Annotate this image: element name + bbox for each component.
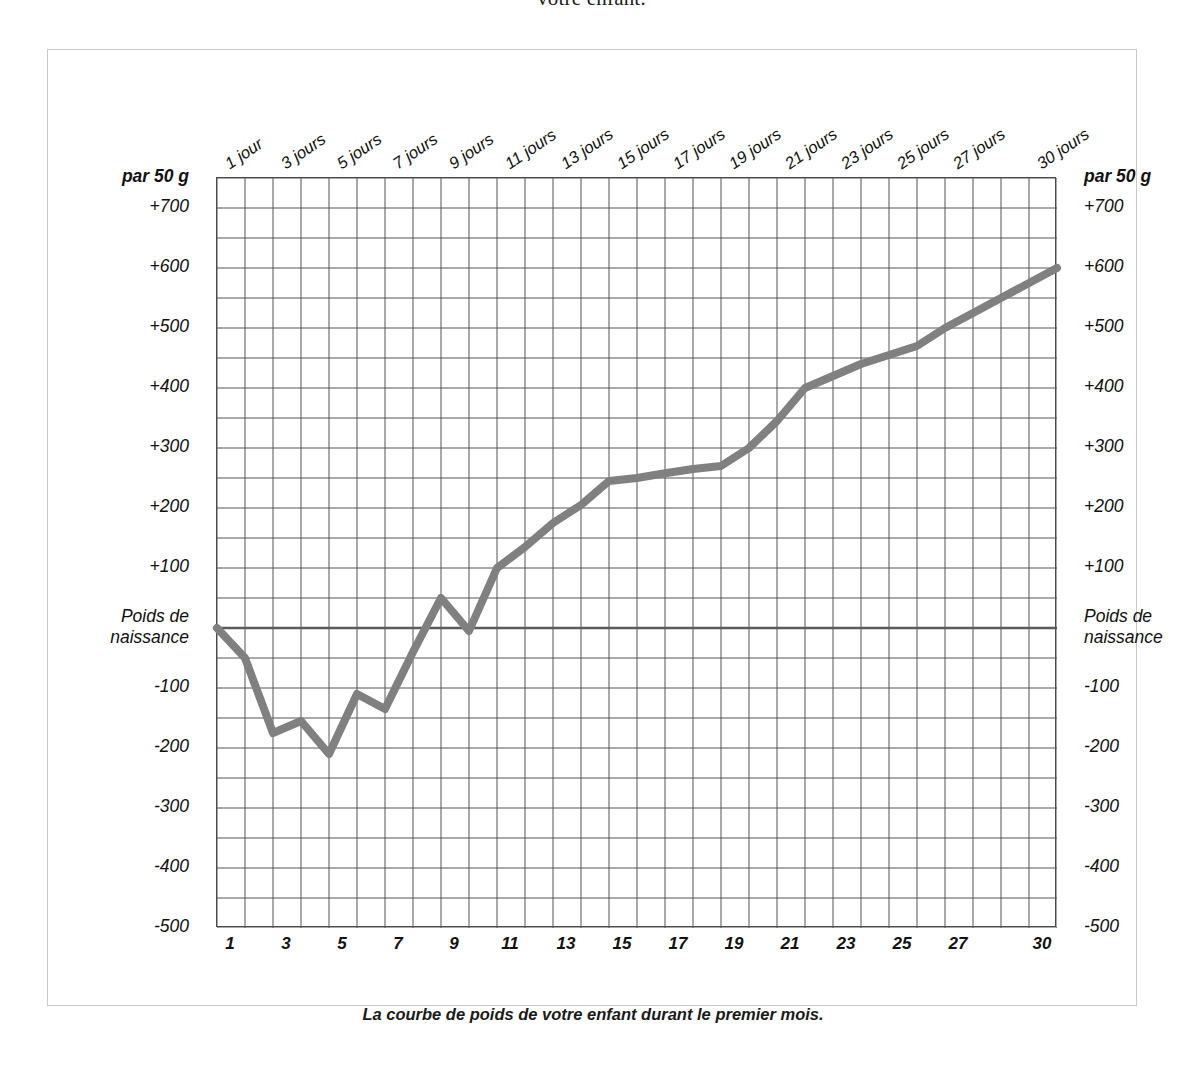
y-axis-tick-label: par 50 g (1084, 166, 1151, 187)
y-axis-tick-label: +100 (150, 556, 189, 577)
y-axis-left-labels: par 50 g+700+600+500+400+300+200+100Poid… (48, 50, 203, 1007)
y-axis-tick-label: +600 (150, 256, 189, 277)
y-axis-tick-label: -100 (154, 676, 189, 697)
weight-curve (217, 178, 1057, 928)
y-axis-tick-label: Poids de naissance (110, 606, 189, 647)
x-axis-top-tick-label: 3 jours (277, 130, 329, 173)
y-axis-tick-label: +300 (150, 436, 189, 457)
x-axis-top-tick-label: 17 jours (669, 124, 728, 173)
y-axis-tick-label: +500 (150, 316, 189, 337)
x-axis-bottom-tick-label: 30 (1033, 934, 1052, 954)
x-axis-bottom-labels: 1357911131517192123252730 (216, 934, 1056, 964)
x-axis-bottom-tick-label: 27 (949, 934, 968, 954)
y-axis-tick-label: +700 (1084, 196, 1123, 217)
x-axis-top-tick-label: 27 jours (949, 124, 1008, 173)
y-axis-tick-label: -300 (1084, 796, 1119, 817)
y-axis-tick-label: -200 (1084, 736, 1119, 757)
x-axis-bottom-tick-label: 5 (337, 934, 346, 954)
y-axis-tick-label: par 50 g (122, 166, 189, 187)
x-axis-top-tick-label: 11 jours (501, 125, 559, 173)
x-axis-bottom-tick-label: 21 (781, 934, 800, 954)
x-axis-top-tick-label: 19 jours (725, 124, 784, 173)
y-axis-tick-label: +500 (1084, 316, 1123, 337)
x-axis-top-tick-label: 13 jours (557, 124, 616, 173)
x-axis-bottom-tick-label: 3 (281, 934, 290, 954)
x-axis-top-tick-label: 1 jour (221, 134, 266, 173)
x-axis-top-tick-label: 25 jours (893, 124, 952, 173)
x-axis-top-tick-label: 23 jours (837, 124, 896, 173)
y-axis-tick-label: +200 (1084, 496, 1123, 517)
x-axis-bottom-tick-label: 17 (669, 934, 688, 954)
plot-area (216, 177, 1056, 927)
y-axis-tick-label: +400 (150, 376, 189, 397)
x-axis-bottom-tick-label: 1 (225, 934, 234, 954)
y-axis-tick-label: -100 (1084, 676, 1119, 697)
y-axis-tick-label: +100 (1084, 556, 1123, 577)
x-axis-bottom-tick-label: 23 (837, 934, 856, 954)
x-axis-bottom-tick-label: 13 (557, 934, 576, 954)
x-axis-top-labels: 1 jour3 jours5 jours7 jours9 jours11 jou… (48, 50, 1138, 177)
x-axis-bottom-tick-label: 15 (613, 934, 632, 954)
y-axis-tick-label: -400 (154, 856, 189, 877)
x-axis-top-tick-label: 9 jours (445, 130, 497, 173)
x-axis-top-tick-label: 21 jours (781, 124, 840, 173)
x-axis-bottom-tick-label: 19 (725, 934, 744, 954)
x-axis-top-tick-label: 15 jours (613, 124, 672, 173)
figure-frame: 1 jour3 jours5 jours7 jours9 jours11 jou… (47, 49, 1137, 1006)
y-axis-tick-label: +600 (1084, 256, 1123, 277)
y-axis-tick-label: Poids de naissance (1084, 606, 1163, 647)
figure-caption: La courbe de poids de votre enfant duran… (48, 1005, 1138, 1024)
y-axis-tick-label: -400 (1084, 856, 1119, 877)
y-axis-tick-label: +200 (150, 496, 189, 517)
y-axis-tick-label: +300 (1084, 436, 1123, 457)
y-axis-tick-label: -300 (154, 796, 189, 817)
x-axis-bottom-tick-label: 7 (393, 934, 402, 954)
y-axis-tick-label: -500 (1084, 916, 1119, 937)
x-axis-top-tick-label: 5 jours (333, 130, 385, 173)
y-axis-tick-label: +700 (150, 196, 189, 217)
weight-curve-line (217, 268, 1057, 754)
y-axis-tick-label: -500 (154, 916, 189, 937)
x-axis-bottom-tick-label: 9 (449, 934, 458, 954)
y-axis-right-labels: par 50 g+700+600+500+400+300+200+100Poid… (1070, 50, 1183, 1007)
x-axis-bottom-tick-label: 25 (893, 934, 912, 954)
x-axis-top-tick-label: 7 jours (389, 130, 441, 173)
y-axis-tick-label: +400 (1084, 376, 1123, 397)
page-cut-text: votre enfant. (0, 0, 1183, 11)
x-axis-bottom-tick-label: 11 (501, 934, 519, 954)
y-axis-tick-label: -200 (154, 736, 189, 757)
